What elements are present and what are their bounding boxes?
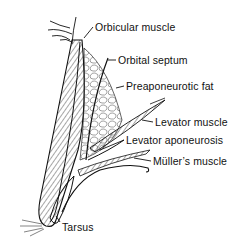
eyelid-anatomy-diagram: Orbicular muscle Orbital septum Preapone…: [0, 0, 252, 240]
skin-contour: [39, 40, 84, 226]
label-orbital-septum: Orbital septum: [118, 54, 188, 66]
label-preaponeurotic-fat: Preaponeurotic fat: [126, 80, 214, 92]
label-levator-aponeurosis: Levator aponeurosis: [126, 134, 223, 146]
label-mullers-muscle: Müller’s muscle: [153, 155, 227, 167]
conjunctiva-line: [62, 165, 149, 212]
label-levator-muscle: Levator muscle: [155, 116, 228, 128]
label-orbicular-muscle: Orbicular muscle: [95, 21, 175, 33]
label-tarsus: Tarsus: [62, 221, 94, 233]
eyelashes: [20, 220, 44, 236]
